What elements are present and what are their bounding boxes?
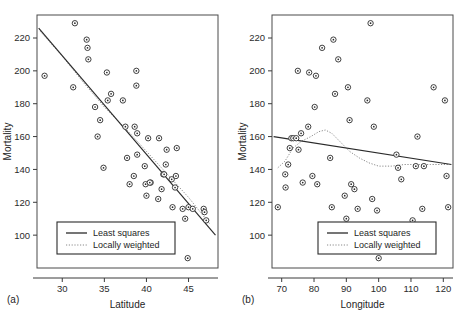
data-point-center (300, 132, 302, 134)
data-point-center (347, 86, 349, 88)
data-point-center (433, 86, 435, 88)
data-point-center (182, 208, 184, 210)
data-point-center (136, 154, 138, 156)
panel-a-svg: 10012014016018020022030354045LatitudeMor… (0, 0, 231, 315)
data-point-center (314, 106, 316, 108)
data-point-center (357, 208, 359, 210)
y-axis-title: Mortality (237, 123, 248, 161)
panel-a-plot-area: 10012014016018020022030354045LatitudeMor… (2, 15, 218, 310)
data-point-center (417, 136, 419, 138)
y-tick-label: 160 (249, 131, 265, 142)
data-point-center (110, 93, 112, 95)
data-point-center (44, 75, 46, 77)
x-tick-label: 100 (371, 283, 387, 294)
data-point-center (370, 22, 372, 24)
data-point-center (366, 100, 368, 102)
data-point-center (94, 106, 96, 108)
data-point-center (129, 183, 131, 185)
y-tick-label: 160 (14, 131, 30, 142)
data-point-center (106, 72, 108, 74)
x-axis-title: Latitude (110, 299, 146, 310)
x-tick-label: 35 (99, 283, 110, 294)
data-point-center (307, 126, 309, 128)
data-point-center (315, 75, 317, 77)
x-tick-label: 80 (309, 283, 320, 294)
legend-label-locally-weighted: Locally weighted (93, 240, 160, 250)
data-point-center (345, 218, 347, 220)
data-point-center (122, 100, 124, 102)
figure-container: 10012014016018020022030354045LatitudeMor… (0, 0, 462, 315)
data-point-center (145, 183, 147, 185)
y-tick-label: 220 (249, 32, 265, 43)
y-tick-label: 200 (14, 65, 30, 76)
data-point-center (87, 47, 89, 49)
panel-tag: (b) (242, 294, 254, 305)
data-point-center (158, 137, 160, 139)
data-point-center (329, 157, 331, 159)
data-point-center (192, 208, 194, 210)
data-point-center (423, 165, 425, 167)
data-point-center (176, 147, 178, 149)
legend-label-least-squares: Least squares (93, 228, 150, 238)
data-point-center (133, 175, 135, 177)
panel-b-svg: 100120140160180200220708090100110120Long… (231, 0, 462, 315)
x-tick-label: 30 (57, 283, 68, 294)
y-tick-label: 140 (14, 164, 30, 175)
data-point-center (135, 85, 137, 87)
data-point-center (99, 119, 101, 121)
data-point-center (103, 167, 105, 169)
data-point-center (163, 174, 165, 176)
x-tick-label: 40 (141, 283, 152, 294)
data-point-center (302, 182, 304, 184)
data-point-center (446, 175, 448, 177)
data-point-center (308, 72, 310, 74)
data-point-center (205, 220, 207, 222)
data-point-center (321, 47, 323, 49)
legend-label-locally-weighted: Locally weighted (354, 240, 421, 250)
y-tick-label: 120 (249, 197, 265, 208)
y-tick-label: 100 (14, 230, 30, 241)
data-point-center (135, 70, 137, 72)
data-point-center (157, 198, 159, 200)
data-point-center (166, 149, 168, 151)
data-point-center (147, 137, 149, 139)
y-tick-label: 220 (14, 32, 30, 43)
data-point-center (373, 126, 375, 128)
x-tick-label: 45 (183, 283, 194, 294)
legend-label-least-squares: Least squares (354, 228, 411, 238)
panel-b-longitude: 100120140160180200220708090100110120Long… (231, 0, 462, 315)
data-point-center (134, 126, 136, 128)
data-point-center (295, 137, 297, 139)
data-point-center (144, 165, 146, 167)
data-point-center (136, 132, 138, 134)
data-point-center (125, 126, 127, 128)
y-tick-label: 120 (14, 197, 30, 208)
data-point-center (337, 59, 339, 61)
data-point-center (297, 70, 299, 72)
data-point-center (349, 119, 351, 121)
data-point-center (204, 211, 206, 213)
data-point-center (146, 195, 148, 197)
data-point-center (344, 195, 346, 197)
data-point-center (188, 206, 190, 208)
x-tick-label: 120 (435, 283, 451, 294)
data-point-center (312, 175, 314, 177)
data-point-center (86, 39, 88, 41)
data-point-center (171, 178, 173, 180)
data-point-center (287, 164, 289, 166)
data-point-center (350, 183, 352, 185)
locally-weighted-curve (278, 130, 448, 168)
data-point-center (172, 206, 174, 208)
data-point-center (174, 187, 176, 189)
y-tick-label: 180 (14, 98, 30, 109)
data-point-center (72, 86, 74, 88)
x-tick-label: 70 (276, 283, 287, 294)
data-point-center (88, 59, 90, 61)
data-point-center (97, 136, 99, 138)
y-tick-label: 200 (249, 65, 265, 76)
y-tick-label: 140 (249, 164, 265, 175)
data-point-center (284, 174, 286, 176)
data-point-center (161, 188, 163, 190)
data-point-center (187, 257, 189, 259)
data-point-center (333, 39, 335, 41)
